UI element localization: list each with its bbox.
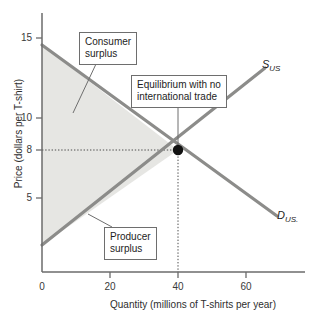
- y-axis-title: Price (dollars per T-shirt): [13, 64, 24, 204]
- callout-equilibrium: Equilibrium with no international trade: [131, 75, 227, 108]
- economics-supply-demand-figure: 15 10 8 5 0 20 40 60 Price (dollars per …: [0, 0, 311, 317]
- callout-consumer-surplus-line1: Consumer: [85, 36, 131, 48]
- x-axis-tick-label-60: 60: [234, 281, 258, 292]
- equilibrium-point-marker: [173, 145, 183, 155]
- chart-plot-area: [0, 0, 311, 317]
- demand-curve-label-main: D: [277, 209, 285, 221]
- supply-curve-label: SUS: [262, 58, 280, 73]
- supply-curve-label-sub: US: [269, 64, 280, 73]
- callout-equilibrium-line2: international trade: [137, 91, 221, 103]
- y-axis-tick-label-15: 15: [10, 32, 32, 43]
- callout-producer-surplus-line1: Producer: [110, 231, 151, 243]
- x-axis-title: Quantity (millions of T-shirts per year): [110, 299, 276, 310]
- demand-curve-label: DUS.: [277, 209, 298, 224]
- producer-surplus-leader-line: [88, 214, 112, 227]
- callout-producer-surplus: Producer surplus: [104, 227, 157, 260]
- callout-equilibrium-line1: Equilibrium with no: [137, 79, 221, 91]
- callout-consumer-surplus-line2: surplus: [85, 48, 131, 60]
- demand-curve-label-sub: US.: [285, 215, 298, 224]
- x-axis-tick-label-20: 20: [98, 281, 122, 292]
- x-axis-tick-label-0: 0: [30, 281, 54, 292]
- x-axis-tick-label-40: 40: [166, 281, 190, 292]
- callout-producer-surplus-line2: surplus: [110, 243, 151, 255]
- callout-consumer-surplus: Consumer surplus: [79, 32, 137, 65]
